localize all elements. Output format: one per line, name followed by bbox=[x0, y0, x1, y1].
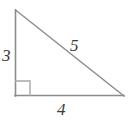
triangle-drawing bbox=[0, 0, 134, 123]
label-leg-horizontal: 4 bbox=[57, 101, 66, 118]
label-hypotenuse: 5 bbox=[70, 37, 79, 54]
right-angle-marker-icon bbox=[15, 81, 30, 96]
right-triangle-figure: 3 5 4 bbox=[0, 0, 134, 123]
label-leg-vertical: 3 bbox=[2, 47, 11, 64]
